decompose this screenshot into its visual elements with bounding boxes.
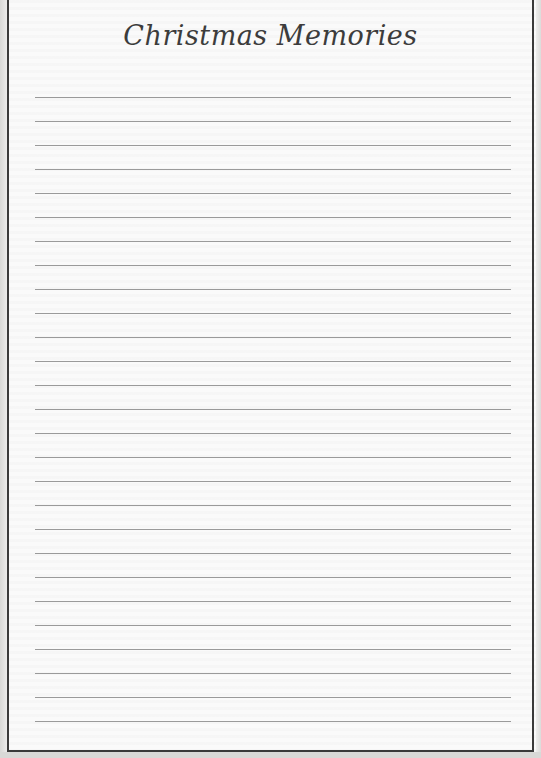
writing-line [35, 601, 511, 602]
writing-line [35, 289, 511, 290]
writing-line [35, 121, 511, 122]
writing-line [35, 169, 511, 170]
paper-edge-bottom [0, 752, 541, 758]
writing-line [35, 481, 511, 482]
writing-line [35, 241, 511, 242]
writing-line [35, 385, 511, 386]
writing-line [35, 433, 511, 434]
writing-line [35, 529, 511, 530]
writing-line [35, 337, 511, 338]
writing-line [35, 625, 511, 626]
paper-edge-left [0, 0, 7, 758]
writing-line [35, 409, 511, 410]
journal-page: Christmas Memories [0, 0, 541, 758]
writing-line [35, 313, 511, 314]
writing-line [35, 217, 511, 218]
writing-line [35, 673, 511, 674]
writing-line [35, 649, 511, 650]
writing-line [35, 553, 511, 554]
writing-line [35, 145, 511, 146]
writing-line [35, 721, 511, 722]
writing-line [35, 193, 511, 194]
writing-line [35, 697, 511, 698]
paper-edge-right [536, 0, 541, 758]
writing-line [35, 265, 511, 266]
page-title: Christmas Memories [0, 20, 541, 51]
writing-lines [35, 97, 511, 745]
writing-line [35, 457, 511, 458]
writing-line [35, 505, 511, 506]
writing-line [35, 361, 511, 362]
writing-line [35, 577, 511, 578]
writing-line [35, 97, 511, 98]
